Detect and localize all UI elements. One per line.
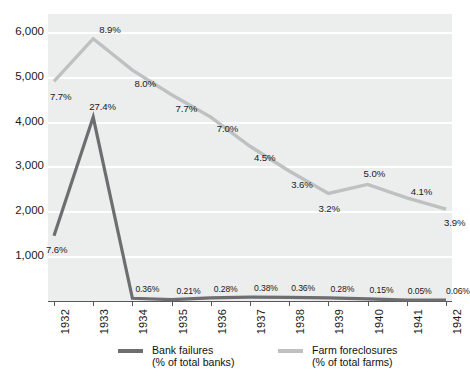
point-label: 7.7% [50,91,71,102]
point-label: 3.6% [291,179,312,190]
point-label: 0.15% [370,285,394,295]
legend-label-title: Bank failures [152,344,213,356]
legend-label-sub: (% of total banks) [152,356,234,368]
point-label: 0.05% [408,286,432,296]
point-label: 8.9% [99,24,120,35]
point-label: 0.21% [177,286,201,296]
point-label: 0.28% [214,284,238,294]
point-label: 5.0% [364,168,385,179]
chart-legend: Bank failures(% of total banks)Farm fore… [0,342,465,377]
legend-entry-bank-failures[interactable]: Bank failures(% of total banks) [118,344,234,369]
point-label: 0.36% [291,283,315,293]
point-label: 8.0% [134,78,155,89]
legend-swatch [118,349,143,353]
point-label: 0.38% [254,283,278,293]
point-label: 7.6% [46,244,67,255]
legend-label-sub: (% of total farms) [312,356,397,368]
point-label: 3.2% [318,203,339,214]
legend-entry-farm-foreclosures[interactable]: Farm foreclosures(% of total farms) [278,344,397,369]
point-label: 4.5% [254,152,275,163]
series-line-farm-foreclosures [54,39,446,209]
legend-label-title: Farm foreclosures [312,344,397,356]
point-label: 3.9% [444,217,465,228]
point-label: 0.36% [135,284,159,294]
legend-label: Farm foreclosures(% of total farms) [312,344,397,369]
legend-label: Bank failures(% of total banks) [152,344,234,369]
point-label: 7.0% [217,123,238,134]
point-label: 4.1% [411,186,432,197]
point-label: 7.7% [176,103,197,114]
legend-swatch [278,349,303,353]
point-label: 0.06% [446,286,470,296]
point-label: 0.28% [330,284,354,294]
point-label: 27.4% [89,101,116,112]
